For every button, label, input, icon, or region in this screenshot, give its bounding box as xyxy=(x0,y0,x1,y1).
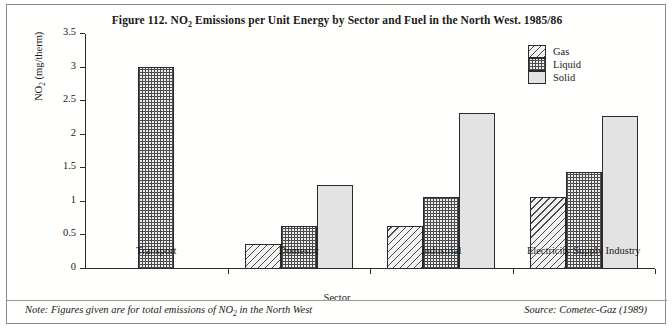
y-tick: 2 xyxy=(80,134,85,135)
bar-industrial-liquid xyxy=(423,197,459,270)
y-tick-label: 2 xyxy=(71,127,76,138)
y-tick: 3.5 xyxy=(80,33,85,34)
legend-swatch-gas-icon xyxy=(528,45,546,58)
figure-note-prefix: Note: Figures given are for total emissi… xyxy=(25,304,233,315)
figure-source: Source: Cometec-Gaz (1989) xyxy=(524,304,647,315)
y-tick-label: 3.5 xyxy=(63,26,76,37)
y-tick-label: 1 xyxy=(71,194,76,205)
legend-label: Gas xyxy=(553,45,569,58)
x-tick xyxy=(228,269,229,274)
y-tick: 3 xyxy=(80,67,85,68)
figure-frame: Figure 112. NO2 Emissions per Unit Energ… xyxy=(6,4,666,324)
y-tick-label: 0.5 xyxy=(63,227,76,238)
legend-swatch-solid-icon xyxy=(528,71,546,84)
y-axis-title: NO2 (mg/therm) xyxy=(33,32,47,101)
x-tick xyxy=(513,269,514,274)
legend-label: Solid xyxy=(553,71,575,84)
footer-divider xyxy=(7,300,667,301)
y-tick: 0.5 xyxy=(80,234,85,235)
legend-swatch-liquid-icon xyxy=(528,58,546,71)
legend-item-liquid: Liquid xyxy=(528,58,638,71)
y-axis-title-subscript: 2 xyxy=(38,82,47,86)
chart-title-prefix: Figure 112. NO xyxy=(112,14,188,26)
y-tick: 1.5 xyxy=(80,167,85,168)
y-axis-title-suffix: (mg/therm) xyxy=(33,32,44,82)
figure-note: Note: Figures given are for total emissi… xyxy=(25,304,312,318)
x-category-label-electricity-supply-industry: Electricity Supply Industry xyxy=(513,245,656,256)
bar-domestic-solid xyxy=(317,185,353,269)
chart-legend: GasLiquidSolid xyxy=(528,45,638,84)
legend-item-gas: Gas xyxy=(528,45,638,58)
legend-item-solid: Solid xyxy=(528,71,638,84)
y-tick-label: 2.5 xyxy=(63,93,76,104)
bar-electricity-supply-industry-gas xyxy=(530,197,566,270)
x-category-label-industrial: Industrial xyxy=(370,245,513,256)
y-axis-title-prefix: NO xyxy=(33,86,44,101)
y-tick-label: 3 xyxy=(71,60,76,71)
y-tick-label: 0 xyxy=(71,261,76,272)
y-tick-label: 1.5 xyxy=(63,160,76,171)
y-tick: 1 xyxy=(80,201,85,202)
x-category-label-domestic: Domestic xyxy=(228,245,371,256)
x-tick xyxy=(370,269,371,274)
x-axis-title: Sector xyxy=(7,292,667,303)
x-tick xyxy=(655,269,656,274)
chart-title-suffix: Emissions per Unit Energy by Sector and … xyxy=(192,14,562,26)
chart-title: Figure 112. NO2 Emissions per Unit Energ… xyxy=(7,14,667,29)
y-tick: 2.5 xyxy=(80,100,85,101)
figure-note-suffix: in the North West xyxy=(237,304,312,315)
bar-transport-liquid xyxy=(138,67,174,269)
y-axis-line xyxy=(85,34,86,269)
x-category-label-transport: Transport xyxy=(85,245,228,256)
y-tick: 0 xyxy=(80,268,85,269)
legend-label: Liquid xyxy=(553,58,581,71)
